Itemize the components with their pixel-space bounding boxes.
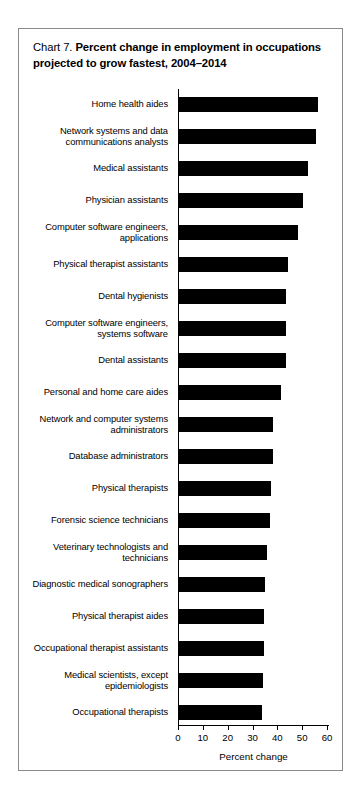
bar bbox=[179, 193, 303, 208]
category-label: Diagnostic medical sonographers bbox=[19, 578, 168, 590]
bar-row bbox=[179, 153, 328, 185]
x-axis-line bbox=[178, 725, 329, 726]
bar-row bbox=[179, 377, 328, 409]
bar bbox=[179, 705, 262, 720]
category-label: Medical scientists, except epidemiologis… bbox=[19, 669, 168, 692]
x-tick bbox=[327, 725, 328, 730]
bar bbox=[179, 609, 264, 624]
chart-figure: Chart 7. Percent change in employment in… bbox=[18, 28, 343, 771]
x-tick-label: 40 bbox=[264, 732, 290, 743]
bar-row bbox=[179, 473, 328, 505]
bar-row bbox=[179, 537, 328, 569]
category-label: Dental assistants bbox=[19, 354, 168, 366]
x-tick-label: 30 bbox=[240, 732, 266, 743]
bar-row bbox=[179, 313, 328, 345]
bar bbox=[179, 225, 298, 240]
category-label: Network and computer systems administrat… bbox=[19, 413, 168, 436]
bar-row bbox=[179, 569, 328, 601]
category-label: Physician assistants bbox=[19, 194, 168, 206]
category-labels: Home health aidesNetwork systems and dat… bbox=[19, 89, 174, 725]
x-axis-title: Percent change bbox=[178, 751, 329, 762]
bar bbox=[179, 481, 271, 496]
plot-area bbox=[178, 89, 328, 725]
category-label: Physical therapist assistants bbox=[19, 258, 168, 270]
bar bbox=[179, 545, 267, 560]
x-tick-label: 0 bbox=[165, 732, 191, 743]
bar-row bbox=[179, 89, 328, 121]
category-label: Dental hygienists bbox=[19, 290, 168, 302]
bar bbox=[179, 289, 286, 304]
bar bbox=[179, 97, 318, 112]
bar-row bbox=[179, 217, 328, 249]
bar bbox=[179, 673, 263, 688]
bar-row bbox=[179, 345, 328, 377]
x-tick-label: 10 bbox=[190, 732, 216, 743]
category-label: Physical therapist aides bbox=[19, 610, 168, 622]
bar-row bbox=[179, 281, 328, 313]
category-label: Physical therapists bbox=[19, 482, 168, 494]
bar-row bbox=[179, 249, 328, 281]
bar-row bbox=[179, 665, 328, 697]
bar bbox=[179, 513, 270, 528]
category-label: Computer software engineers, systems sof… bbox=[19, 317, 168, 340]
bar bbox=[179, 257, 288, 272]
x-tick bbox=[178, 725, 179, 730]
category-label: Network systems and data communications … bbox=[19, 125, 168, 148]
bar bbox=[179, 353, 286, 368]
bar bbox=[179, 449, 273, 464]
category-label: Medical assistants bbox=[19, 162, 168, 174]
category-label: Database administrators bbox=[19, 450, 168, 462]
bar bbox=[179, 129, 316, 144]
category-label: Forensic science technicians bbox=[19, 514, 168, 526]
category-label: Occupational therapist assistants bbox=[19, 642, 168, 654]
bar-row bbox=[179, 633, 328, 665]
x-tick bbox=[277, 725, 278, 730]
x-tick-label: 60 bbox=[314, 732, 340, 743]
bar bbox=[179, 417, 273, 432]
x-tick bbox=[203, 725, 204, 730]
category-label: Personal and home care aides bbox=[19, 386, 168, 398]
bar bbox=[179, 321, 286, 336]
category-label: Computer software engineers, application… bbox=[19, 221, 168, 244]
category-label: Home health aides bbox=[19, 98, 168, 110]
category-label: Occupational therapists bbox=[19, 706, 168, 718]
chart-headline: Percent change in employment in occupati… bbox=[33, 41, 321, 69]
bar bbox=[179, 641, 264, 656]
x-tick-label: 20 bbox=[215, 732, 241, 743]
bar-row bbox=[179, 185, 328, 217]
bar-row bbox=[179, 441, 328, 473]
x-tick-label: 50 bbox=[289, 732, 315, 743]
bar bbox=[179, 161, 308, 176]
x-tick bbox=[253, 725, 254, 730]
bar bbox=[179, 577, 265, 592]
bar-row bbox=[179, 121, 328, 153]
bar-row bbox=[179, 409, 328, 441]
x-tick bbox=[228, 725, 229, 730]
bar bbox=[179, 385, 281, 400]
x-tick bbox=[302, 725, 303, 730]
bar-series bbox=[179, 89, 328, 725]
category-label: Veterinary technologists and technicians bbox=[19, 541, 168, 564]
chart-title: Chart 7. Percent change in employment in… bbox=[33, 40, 333, 71]
bar-row bbox=[179, 505, 328, 537]
chart-number: Chart 7. bbox=[33, 41, 72, 53]
bar-row bbox=[179, 601, 328, 633]
